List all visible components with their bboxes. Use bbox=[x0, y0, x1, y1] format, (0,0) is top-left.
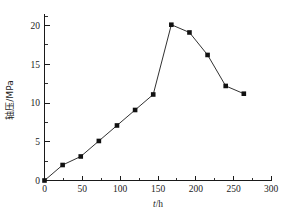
x-tick-label: 100 bbox=[113, 184, 128, 194]
data-series-line bbox=[45, 25, 244, 181]
data-point bbox=[42, 178, 47, 183]
y-tick-label: 5 bbox=[35, 137, 40, 147]
data-point bbox=[133, 108, 138, 113]
data-point bbox=[205, 53, 210, 58]
y-tick-label: 20 bbox=[31, 21, 41, 31]
x-tick-label: 300 bbox=[264, 184, 279, 194]
x-tick-label: 50 bbox=[78, 184, 88, 194]
x-axis-major-ticks bbox=[45, 176, 272, 181]
data-point bbox=[242, 91, 247, 96]
x-axis-title-unit: /h bbox=[156, 199, 164, 209]
y-tick-label: 0 bbox=[35, 176, 40, 186]
data-point bbox=[78, 154, 83, 159]
data-point bbox=[223, 84, 228, 89]
x-axis-tick-labels: 0 50 100 150 200 250 300 bbox=[42, 184, 278, 194]
y-tick-label: 15 bbox=[31, 60, 41, 70]
y-tick-label: 10 bbox=[31, 98, 41, 108]
data-point bbox=[97, 139, 102, 144]
y-axis-title: 轴压/MPa bbox=[4, 80, 15, 119]
data-point bbox=[115, 123, 120, 128]
data-point bbox=[151, 92, 156, 97]
chart-figure: 0 50 100 150 200 250 300 0 5 10 15 20 t/… bbox=[0, 0, 289, 221]
x-axis-title: t/h bbox=[153, 199, 163, 209]
axis-group bbox=[44, 14, 271, 181]
y-axis-tick-labels: 0 5 10 15 20 bbox=[31, 21, 41, 186]
y-axis-major-ticks bbox=[45, 26, 50, 181]
data-point bbox=[169, 22, 174, 27]
x-tick-label: 200 bbox=[189, 184, 204, 194]
x-tick-label: 0 bbox=[42, 184, 47, 194]
x-tick-label: 150 bbox=[151, 184, 166, 194]
line-chart: 0 50 100 150 200 250 300 0 5 10 15 20 t/… bbox=[0, 0, 289, 221]
data-point bbox=[187, 30, 192, 35]
data-point bbox=[60, 163, 65, 168]
x-tick-label: 250 bbox=[227, 184, 242, 194]
